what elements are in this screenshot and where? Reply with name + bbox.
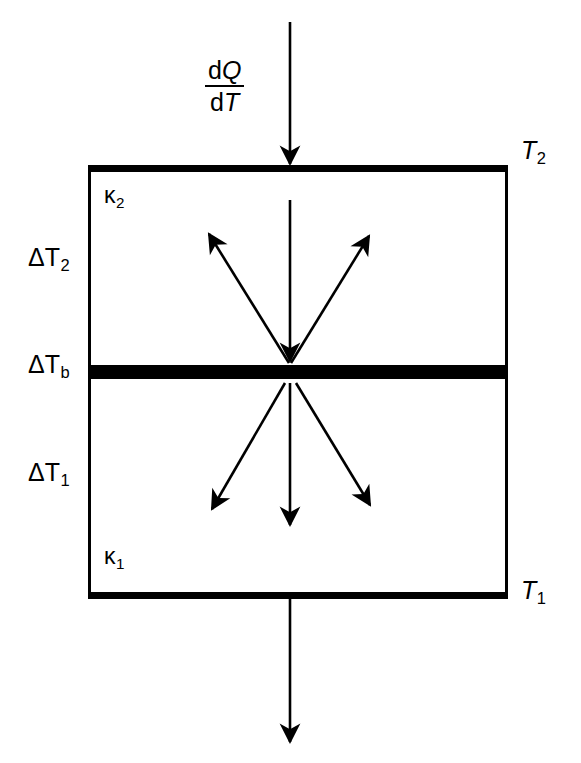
interface-drop-symbol: ΔT xyxy=(28,350,60,378)
backscatter-right-arrow xyxy=(291,236,369,363)
lower-drop-subscript: 1 xyxy=(60,471,70,489)
lower-conductivity-subscript: 1 xyxy=(116,555,125,572)
top-temperature-symbol: T xyxy=(521,136,536,164)
heat-symbol: Q xyxy=(222,56,241,84)
lower-conductivity-symbol: κ xyxy=(104,543,116,569)
upper-layer-temperature-drop-label: ΔT2 xyxy=(28,245,70,273)
interface-boundary-bar xyxy=(88,365,508,379)
bottom-temperature-label: T1 xyxy=(521,578,546,606)
thermal-interface-figure: dQ dT T2 T1 κ2 κ1 ΔT2 ΔTb ΔT1 xyxy=(0,0,581,763)
bottom-boundary-surface xyxy=(88,592,508,599)
upper-conductivity-symbol: κ xyxy=(104,182,116,208)
differential-d-denominator: d xyxy=(210,88,224,116)
top-temperature-label: T2 xyxy=(521,138,546,166)
upper-drop-subscript: 2 xyxy=(60,256,70,274)
bottom-temperature-subscript: 1 xyxy=(536,589,546,607)
top-boundary-surface xyxy=(88,165,508,172)
top-temperature-subscript: 2 xyxy=(536,149,546,167)
lower-layer-conductivity-label: κ1 xyxy=(104,545,124,571)
interface-drop-subscript: b xyxy=(60,363,70,381)
caption-strip xyxy=(0,752,581,763)
lower-drop-symbol: ΔT xyxy=(28,458,60,486)
diagram-canvas xyxy=(0,0,581,763)
interface-temperature-drop-label: ΔTb xyxy=(28,352,70,380)
bottom-temperature-symbol: T xyxy=(521,576,536,604)
upper-drop-symbol: ΔT xyxy=(28,243,60,271)
upper-conductivity-subscript: 2 xyxy=(116,194,125,211)
heat-flux-denominator: dT xyxy=(205,85,244,115)
temperature-symbol: T xyxy=(224,88,239,116)
differential-d-numerator: d xyxy=(208,56,222,84)
heat-flux-label: dQ dT xyxy=(205,58,244,115)
transmitted-right-arrow xyxy=(296,383,370,505)
heat-flux-numerator: dQ xyxy=(205,58,244,85)
upper-layer-conductivity-label: κ2 xyxy=(104,184,124,210)
transmitted-left-arrow xyxy=(212,383,285,509)
backscatter-left-arrow xyxy=(209,234,289,363)
lower-layer-temperature-drop-label: ΔT1 xyxy=(28,460,70,488)
